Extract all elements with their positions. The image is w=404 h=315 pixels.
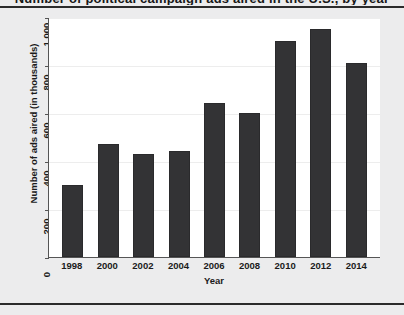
bar-series — [49, 18, 380, 257]
x-axis-tick-label: 1998 — [54, 260, 90, 271]
bar-slot — [126, 18, 161, 257]
y-axis-tick-labels: 02004006008001,000 — [12, 10, 46, 301]
bar-slot — [303, 18, 338, 257]
x-axis-tick-label: 2000 — [90, 260, 126, 271]
bar[interactable] — [204, 103, 225, 257]
bar[interactable] — [62, 185, 83, 257]
bar[interactable] — [239, 113, 260, 257]
bar-chart-figure: Number of ads aired (in thousands) 02004… — [0, 10, 404, 301]
x-axis-tick-label: 2014 — [339, 260, 375, 271]
bar-slot — [90, 18, 125, 257]
bar-slot — [268, 18, 303, 257]
x-axis-title: Year — [48, 275, 380, 286]
bar[interactable] — [310, 29, 331, 257]
bar[interactable] — [98, 144, 119, 257]
bar-slot — [232, 18, 267, 257]
x-axis-tick-label: 2006 — [196, 260, 232, 271]
bar-slot — [339, 18, 374, 257]
bar[interactable] — [133, 154, 154, 257]
bar-slot — [197, 18, 232, 257]
bar[interactable] — [169, 151, 190, 257]
x-axis-tick-labels: 199820002002200420062008201020122014 — [48, 260, 380, 271]
bar-slot — [55, 18, 90, 257]
page-rule-bottom — [0, 303, 404, 305]
x-axis-tick-label: 2012 — [303, 260, 339, 271]
plot-panel — [48, 18, 380, 258]
page-rule-top — [0, 6, 404, 8]
x-axis-tick-label: 2002 — [125, 260, 161, 271]
clipped-page-header: Number of political campaign ads aired i… — [0, 0, 404, 5]
x-axis-tick-label: 2004 — [161, 260, 197, 271]
x-axis-tick-label: 2010 — [267, 260, 303, 271]
bar[interactable] — [275, 41, 296, 257]
bar[interactable] — [346, 63, 367, 257]
x-axis-tick-label: 2008 — [232, 260, 268, 271]
bar-slot — [161, 18, 196, 257]
